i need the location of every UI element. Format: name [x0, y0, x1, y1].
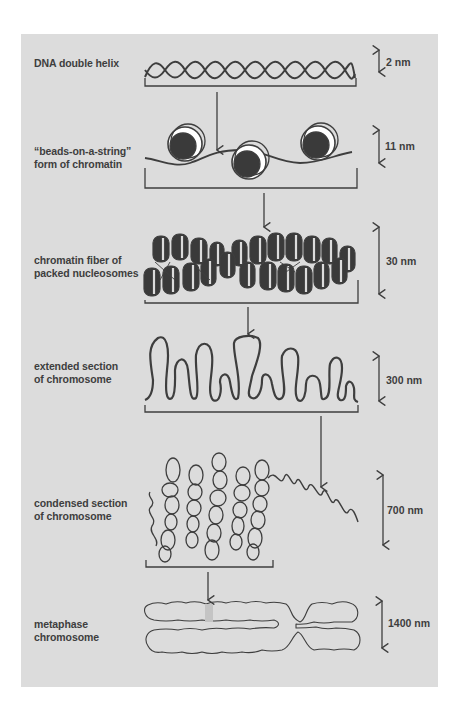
chromatin-fiber-graphic	[144, 233, 358, 303]
extended-section-graphic	[145, 336, 358, 412]
condensed-section-graphic	[146, 453, 358, 567]
chromatin-diagram-art	[0, 0, 457, 720]
metaphase-chromosome-graphic	[145, 602, 360, 654]
dna-helix-graphic	[145, 62, 356, 86]
beads-on-string-graphic	[145, 123, 357, 188]
